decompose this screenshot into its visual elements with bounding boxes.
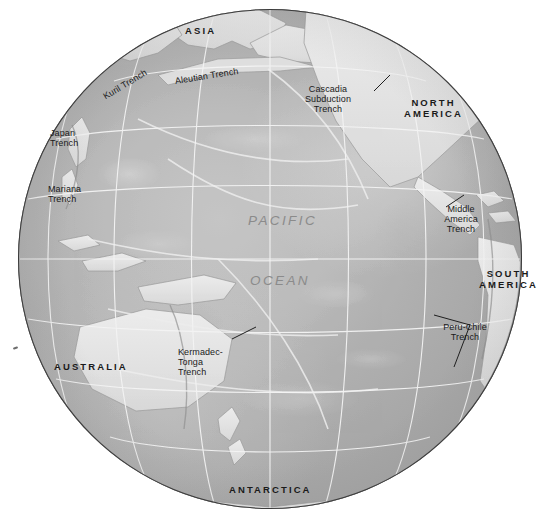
continent-label-south-america: SOUTHAMERICA xyxy=(479,269,538,290)
continent-label-north-america: NORTHAMERICA xyxy=(404,98,463,119)
ocean-label-ocean: OCEAN xyxy=(250,273,310,288)
peru-chile-line-2: Trench xyxy=(451,332,479,342)
kermadec-line-3: Trench xyxy=(178,367,206,377)
ocean-label-pacific: PACIFIC xyxy=(248,213,317,228)
trench-label-japan: JapanTrench xyxy=(50,128,78,148)
peru-chile-line-1: Peru-Chile xyxy=(443,322,487,332)
globe-sphere xyxy=(18,9,522,509)
japan-line-2: Trench xyxy=(50,138,78,148)
cascadia-line-2: Subduction xyxy=(305,94,351,104)
middle-america-line-1: Middle xyxy=(447,204,474,214)
continent-label-asia: ASIA xyxy=(185,26,216,37)
japan-line-1: Japan xyxy=(50,128,75,138)
kermadec-line-2: Tonga xyxy=(178,357,203,367)
continent-label-antarctica: ANTARCTICA xyxy=(229,485,312,496)
trench-label-kermadec-tonga: Kermadec-TongaTrench xyxy=(178,347,223,377)
globe xyxy=(18,9,522,509)
middle-america-line-2: America xyxy=(444,214,478,224)
kermadec-line-1: Kermadec- xyxy=(178,347,223,357)
trench-label-peru-chile: Peru-ChileTrench xyxy=(434,322,496,342)
mariana-line-1: Mariana xyxy=(48,184,81,194)
continent-label-australia: AUSTRALIA xyxy=(54,362,128,373)
north-america-line-1: NORTH xyxy=(411,97,455,108)
cascadia-line-1: Cascadia xyxy=(309,84,347,94)
south-america-line-1: SOUTH xyxy=(487,268,531,279)
north-america-line-2: AMERICA xyxy=(404,108,463,119)
south-america-line-2: AMERICA xyxy=(479,279,538,290)
cascadia-line-3: Trench xyxy=(314,104,342,114)
limb-darkening xyxy=(18,9,522,509)
mariana-line-2: Trench xyxy=(48,194,76,204)
trench-label-middle-america: MiddleAmericaTrench xyxy=(430,204,492,234)
middle-america-line-3: Trench xyxy=(447,224,475,234)
map-canvas: PACIFIC OCEAN ASIA NORTHAMERICA SOUTHAME… xyxy=(0,0,544,518)
trench-label-cascadia: CascadiaSubductionTrench xyxy=(288,84,368,114)
trench-label-mariana: MarianaTrench xyxy=(48,184,81,204)
